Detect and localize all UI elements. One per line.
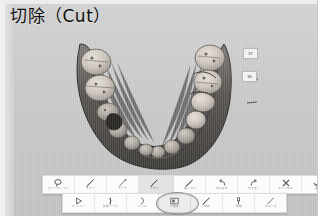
tool-eraser-label: 消しゴム [184, 187, 196, 190]
tool-undo-label: 元に戻す [216, 187, 228, 190]
pen-curve-icon [117, 179, 129, 187]
undo-arrow-icon [216, 179, 228, 187]
callout-leader-line-36 [247, 101, 257, 103]
page-title: 切除（Cut） [10, 6, 111, 26]
brush-icon [149, 179, 161, 187]
close-x-icon [280, 179, 292, 187]
tool-redo[interactable]: やり直し [238, 176, 270, 193]
tool-redo-label: やり直し [248, 187, 260, 190]
cancel-button[interactable]: キャンセル [270, 176, 302, 193]
tool-brush-label: ブラシ [150, 187, 159, 190]
tool-undo[interactable]: 元に戻す [206, 176, 238, 193]
redo-arrow-icon [248, 179, 260, 187]
window-frame-left-shade [5, 4, 14, 216]
mode-play[interactable]: プレビュー [63, 194, 95, 212]
tool-eraser[interactable]: 消しゴム [174, 176, 206, 193]
tool-free-select-label: フリーセレクト [48, 187, 69, 190]
window-frame-top [0, 0, 317, 4]
mode-trim-label: トリム [138, 205, 147, 208]
mode-measure-label: 計測ツール [103, 205, 118, 208]
mode-measure[interactable]: 計測ツール [95, 194, 127, 212]
tool-line-label: ライン [86, 187, 95, 190]
mode-play-label: プレビュー [71, 205, 86, 208]
mode-cut-label: 切除 [204, 205, 210, 208]
cancel-button-label: キャンセル [278, 187, 293, 190]
3d-dental-model-viewport[interactable] [14, 26, 304, 176]
confirm-button[interactable]: 実行 [302, 176, 317, 193]
tool-brush[interactable]: ブラシ [139, 176, 171, 193]
application-window: 切除（Cut） [0, 0, 317, 216]
check-icon [312, 179, 318, 187]
tool-curve[interactable]: カーブ [107, 176, 139, 193]
tooth-callout-36[interactable]: 36 [242, 71, 257, 82]
mode-trim[interactable]: トリム [127, 194, 159, 212]
tool-line[interactable]: ライン [75, 176, 107, 193]
tool-free-select[interactable]: フリーセレクト [43, 176, 75, 193]
pen-line-icon [85, 179, 97, 187]
tooth-callout-37[interactable]: 37 [243, 48, 258, 59]
mode-sculpt-label: 彫刻 [236, 205, 242, 208]
eraser-icon [184, 179, 196, 187]
highlight-ellipse [156, 192, 199, 215]
confirm-button-label: 実行 [315, 187, 317, 190]
tool-curve-label: カーブ [118, 187, 127, 190]
dental-arch-render [58, 28, 244, 174]
mode-smooth[interactable]: スムース [255, 194, 286, 212]
mode-smooth-label: スムース [265, 205, 277, 208]
lasso-icon [53, 179, 65, 187]
window-frame-left [0, 0, 5, 216]
mode-sculpt[interactable]: 彫刻 [223, 194, 255, 212]
dental-arch-model[interactable] [58, 28, 244, 174]
